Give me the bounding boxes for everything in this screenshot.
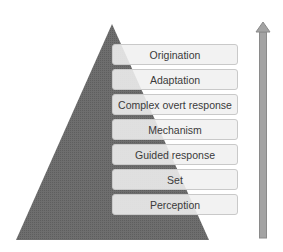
level-mechanism: Mechanism (112, 119, 238, 140)
level-origination: Origination (112, 44, 238, 65)
level-complex-overt-response: Complex overt response (112, 94, 238, 115)
level-adaptation: Adaptation (112, 69, 238, 90)
arrow-up-icon (256, 22, 270, 238)
level-perception: Perception (112, 194, 238, 215)
level-set: Set (112, 169, 238, 190)
level-guided-response: Guided response (112, 144, 238, 165)
